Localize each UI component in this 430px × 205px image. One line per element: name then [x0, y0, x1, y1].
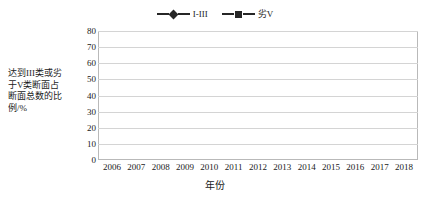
legend-line-icon — [243, 13, 255, 15]
y-axis-tick-label: 50 — [74, 75, 96, 84]
plot-area — [98, 31, 418, 160]
legend-label-series-2: 劣V — [258, 10, 274, 19]
grid-line — [98, 47, 418, 48]
grid-line — [98, 112, 418, 113]
y-axis-title-line-4: 例/% — [8, 103, 80, 115]
legend-item-series-2[interactable]: 劣V — [222, 10, 274, 19]
x-axis-title: 年份 — [0, 180, 430, 191]
grid-line — [98, 96, 418, 97]
legend-item-series-1[interactable]: I-III — [157, 10, 208, 19]
grid-line — [98, 144, 418, 145]
y-axis-tick-label: 20 — [74, 123, 96, 132]
y-axis-title: 达到III类或劣 于V类断面占 断面总数的比 例/% — [8, 68, 80, 114]
grid-line — [98, 79, 418, 80]
legend-line-icon — [157, 13, 169, 15]
diamond-marker-icon — [168, 9, 178, 19]
grid-line — [98, 63, 418, 64]
legend-line-icon — [178, 13, 190, 15]
legend-line-icon — [222, 13, 234, 15]
y-axis-tick-label: 80 — [74, 27, 96, 36]
y-axis-tick-label: 60 — [74, 59, 96, 68]
y-axis-tick-label: 10 — [74, 139, 96, 148]
grid-line — [98, 31, 418, 32]
y-axis-tick-label: 40 — [74, 91, 96, 100]
y-axis-tick-label: 0 — [74, 156, 96, 165]
y-axis-title-line-3: 断面总数的比 — [8, 91, 80, 103]
x-axis-ticks: 2006200720082009201020112012201320142015… — [98, 163, 418, 175]
chart-container: I-III 劣V 达到III类或劣 于V类断面占 断面总数的比 例/% 0102… — [0, 0, 430, 205]
y-axis-title-line-1: 达到III类或劣 — [8, 68, 80, 80]
y-axis-title-line-2: 于V类断面占 — [8, 80, 80, 92]
grid-line — [98, 128, 418, 129]
chart-legend: I-III 劣V — [0, 6, 430, 22]
y-axis-ticks: 01020304050607080 — [74, 31, 96, 160]
y-axis-tick-label: 30 — [74, 107, 96, 116]
square-marker-icon — [235, 11, 242, 18]
y-axis-tick-label: 70 — [74, 43, 96, 52]
x-axis-tick-label: 2018 — [389, 163, 419, 172]
legend-label-series-1: I-III — [193, 10, 208, 19]
